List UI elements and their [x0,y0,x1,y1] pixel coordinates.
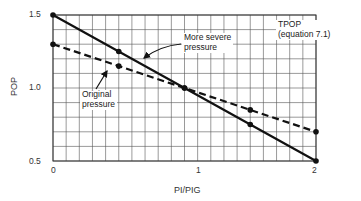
data-point [116,49,122,55]
data-point [50,41,56,47]
annotation-tpop: TPOP (equation 7.1) [276,20,332,40]
data-point [116,63,122,69]
data-point [247,107,253,113]
data-point [182,85,188,91]
annotation-more-severe-line2: pressure [184,43,231,53]
x-axis-title: PI/PIG [174,186,201,195]
y-tick-1.0: 1.0 [29,83,41,92]
annotation-tpop-line2: (equation 7.1) [278,30,330,40]
data-point [313,158,319,164]
y-axis-title: POP [10,77,19,96]
data-point [50,12,56,18]
data-point [313,129,319,135]
data-point [247,122,253,128]
y-tick-1.5: 1.5 [29,10,41,19]
annotation-original: Original pressure [80,90,117,110]
x-tick-0: 0 [51,166,56,175]
x-tick-2: 2 [312,166,317,175]
annotation-original-line2: pressure [82,100,115,110]
x-tick-1: 1 [196,166,201,175]
y-tick-0.5: 0.5 [29,157,41,166]
annotation-more-severe: More severe pressure [182,33,233,53]
